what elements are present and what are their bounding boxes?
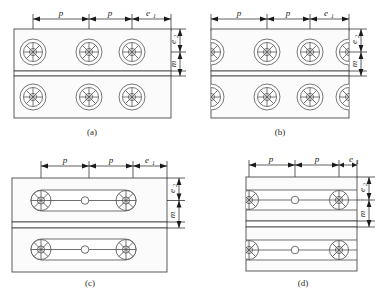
hole-plain — [291, 246, 299, 254]
hole-spoked — [254, 39, 280, 65]
panel-a-hole-row-upper — [20, 39, 145, 65]
hole-spoked — [330, 241, 349, 260]
panel-d: p p e 1 — [191, 150, 383, 300]
panel-a-seam — [14, 71, 171, 76]
hole-spoked — [198, 84, 224, 110]
hole-spoked — [336, 84, 362, 110]
hole-spoked — [76, 84, 102, 110]
panel-a-dim-p2: p — [107, 8, 113, 18]
panel-d-caption: (d) — [283, 278, 323, 288]
panel-b-dim-p1: p — [236, 8, 242, 18]
hole-spoked — [297, 39, 323, 65]
panel-a-dim-e2: e — [168, 40, 178, 44]
panel-c-dim-e1: e — [145, 155, 149, 165]
panel-b-horizontal-dimensions — [211, 14, 349, 31]
hole-spoked — [119, 39, 145, 65]
panel-a-dim-e1: e — [146, 8, 150, 18]
panel-b-dim-m: m — [349, 60, 359, 67]
panel-c-dim-e2: e — [167, 189, 177, 193]
panel-c-caption: (c) — [70, 278, 110, 288]
panel-a-dim-e1-sub: 1 — [153, 13, 156, 19]
panel-b: p p e 1 — [191, 0, 383, 150]
panel-d-horizontal-dimensions — [249, 160, 357, 177]
panel-a-horizontal-dimensions — [33, 14, 171, 31]
hole-spoked — [31, 191, 51, 211]
panel-a-hole-row-lower — [20, 84, 145, 110]
hole-spoked — [198, 39, 224, 65]
panel-d-dim-e1-sub: 1 — [356, 159, 359, 165]
hole-spoked — [240, 191, 259, 210]
panel-b-seam — [211, 71, 349, 76]
panel-d-dim-e2: e — [357, 188, 367, 192]
panel-d-dim-m: m — [357, 210, 367, 217]
panel-b-dim-e1: e — [324, 8, 328, 18]
hole-spoked — [254, 84, 280, 110]
panel-c-slot-lower — [31, 239, 136, 260]
hole-spoked — [297, 84, 323, 110]
panel-b-dim-e2-sub: 2 — [354, 35, 360, 38]
panel-d-dim-e2-sub: 2 — [362, 183, 368, 186]
panel-a-dim-e2-sub: 2 — [173, 35, 179, 38]
panel-c-dim-p2: p — [108, 155, 114, 165]
panel-c-dim-e2-sub: 2 — [172, 184, 178, 187]
panel-a-caption: (a) — [72, 127, 112, 137]
panel-a-dim-m: m — [168, 60, 178, 67]
panel-d-dim-e1: e — [349, 154, 353, 164]
hole-spoked — [119, 84, 145, 110]
panel-c-dim-p1: p — [62, 155, 68, 165]
hole-spoked — [116, 191, 136, 211]
panel-c-dim-m: m — [167, 211, 177, 218]
panel-c: p p e 1 — [0, 150, 192, 300]
hole-plain — [81, 246, 89, 254]
hole-spoked — [240, 241, 259, 260]
panel-b-dim-e1-sub: 1 — [331, 13, 334, 19]
panel-d-slot-lower — [240, 240, 358, 260]
hole-spoked — [76, 39, 102, 65]
panel-d-dim-p1: p — [268, 154, 274, 164]
panel-a-dim-p1: p — [58, 8, 64, 18]
panel-a: p p e 1 — [0, 0, 192, 150]
panel-d-seam — [246, 221, 357, 227]
hole-plain — [291, 196, 299, 204]
hole-spoked — [31, 240, 51, 260]
panel-c-seam — [12, 222, 167, 228]
hole-spoked — [330, 191, 349, 210]
hole-spoked — [20, 84, 46, 110]
panel-b-dim-p2: p — [285, 8, 291, 18]
panel-c-slot-upper — [31, 190, 136, 211]
panel-b-dim-e2: e — [349, 40, 359, 44]
hole-plain — [81, 197, 89, 205]
panel-d-slot-upper — [240, 190, 358, 210]
panel-b-caption: (b) — [260, 127, 300, 137]
panel-d-dim-p2: p — [314, 154, 320, 164]
hole-spoked — [20, 39, 46, 65]
hole-spoked — [116, 240, 136, 260]
panel-c-dim-e1-sub: 1 — [152, 160, 155, 166]
